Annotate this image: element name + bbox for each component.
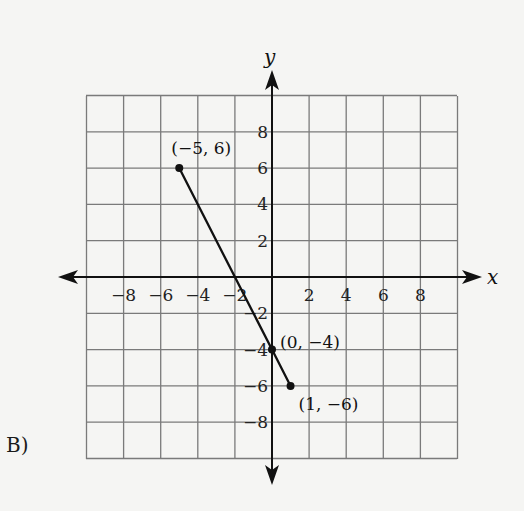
data-point bbox=[175, 164, 183, 172]
y-axis-label: y bbox=[263, 45, 276, 69]
x-tick-label: 8 bbox=[415, 285, 426, 305]
y-tick-label: 2 bbox=[257, 231, 268, 251]
y-tick-label: −4 bbox=[243, 340, 268, 360]
data-point bbox=[268, 346, 276, 354]
point-label: (1, −6) bbox=[299, 394, 359, 414]
y-tick-label: 6 bbox=[257, 158, 268, 178]
y-tick-label: 8 bbox=[257, 122, 268, 142]
x-tick-label: 6 bbox=[378, 285, 389, 305]
point-label: (0, −4) bbox=[280, 332, 340, 352]
coordinate-plane: xy−8−6−4−224688642−2−4−6−8(−5, 6)(0, −4)… bbox=[0, 0, 524, 511]
data-point bbox=[287, 382, 295, 390]
answer-choice-label: B) bbox=[6, 433, 29, 457]
x-tick-label: 4 bbox=[341, 285, 352, 305]
x-tick-label: −4 bbox=[185, 285, 210, 305]
x-axis-label: x bbox=[487, 265, 498, 289]
x-tick-label: 2 bbox=[304, 285, 315, 305]
y-tick-label: −6 bbox=[243, 376, 268, 396]
y-tick-label: 4 bbox=[257, 194, 268, 214]
y-tick-label: −8 bbox=[243, 412, 268, 432]
x-tick-label: −8 bbox=[111, 285, 136, 305]
point-label: (−5, 6) bbox=[171, 138, 231, 158]
graph-page: xy−8−6−4−224688642−2−4−6−8(−5, 6)(0, −4)… bbox=[0, 0, 524, 511]
y-tick-label: −2 bbox=[243, 303, 268, 323]
x-tick-label: −6 bbox=[148, 285, 173, 305]
